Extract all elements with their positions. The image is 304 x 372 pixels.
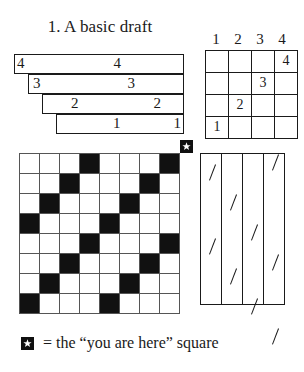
checkerboard-cell-filled bbox=[60, 174, 80, 194]
checkerboard-cell-filled bbox=[40, 194, 60, 214]
checkerboard-cell-empty bbox=[80, 294, 100, 314]
checkerboard-cell-filled bbox=[20, 214, 40, 234]
checkerboard-cell-empty bbox=[40, 154, 60, 174]
checkerboard-cell-filled bbox=[100, 294, 120, 314]
staircase-row-label-right: 2 bbox=[154, 96, 162, 111]
slash-mark-icon bbox=[207, 238, 216, 255]
staircase-row-label-left: 4 bbox=[17, 56, 25, 71]
checkerboard-cell-empty bbox=[140, 214, 160, 234]
checkerboard-row bbox=[20, 214, 180, 234]
star-icon bbox=[23, 339, 32, 348]
checkerboard-cell-filled bbox=[20, 294, 40, 314]
key-grid-column-header: 2 bbox=[227, 32, 249, 48]
key-grid-row: 3 bbox=[206, 72, 298, 94]
checkerboard-cell-empty bbox=[160, 274, 180, 294]
key-grid-row: 2 bbox=[206, 94, 298, 116]
slash-column-panel bbox=[200, 153, 285, 305]
checkerboard-cell-empty bbox=[60, 194, 80, 214]
checkerboard-cell-empty bbox=[20, 254, 40, 274]
checkerboard-cell-empty bbox=[160, 214, 180, 234]
key-grid-cell bbox=[206, 94, 229, 116]
checkerboard-cell-empty bbox=[80, 194, 100, 214]
legend-text: = the “you are here” square bbox=[43, 334, 219, 352]
checkerboard-cell-empty bbox=[160, 174, 180, 194]
checkerboard-cell-empty bbox=[80, 274, 100, 294]
star-icon bbox=[182, 142, 191, 151]
checkerboard-cell-empty bbox=[100, 274, 120, 294]
checkerboard-cell-empty bbox=[60, 234, 80, 254]
key-grid-row: 1 bbox=[206, 116, 298, 138]
staircase-row: 1 1 bbox=[56, 114, 184, 134]
staircase-row: 2 2 bbox=[42, 94, 184, 114]
slash-mark-icon bbox=[270, 328, 279, 345]
key-grid-cell: 2 bbox=[229, 94, 252, 116]
checkerboard-cell-empty bbox=[120, 154, 140, 174]
key-grid-cell bbox=[275, 94, 298, 116]
checkerboard-cell-empty bbox=[100, 154, 120, 174]
checkerboard-cell-empty bbox=[140, 194, 160, 214]
key-grid-cell bbox=[229, 116, 252, 138]
checkerboard-row bbox=[20, 294, 180, 314]
slash-mark-icon bbox=[249, 298, 258, 315]
checkerboard-cell-empty bbox=[60, 154, 80, 174]
checkerboard-cell-filled bbox=[40, 274, 60, 294]
checkerboard-cell-empty bbox=[100, 194, 120, 214]
checkerboard-cell-empty bbox=[20, 274, 40, 294]
key-grid-cell bbox=[252, 94, 275, 116]
key-grid-column-headers: 1 2 3 4 bbox=[205, 32, 293, 48]
staircase-row-label-right: 3 bbox=[128, 76, 136, 91]
checkerboard-cell-empty bbox=[60, 274, 80, 294]
checkerboard-cell-empty bbox=[40, 294, 60, 314]
key-grid-cell bbox=[252, 116, 275, 138]
key-grid-cell bbox=[229, 72, 252, 94]
checkerboard-cell-empty bbox=[160, 254, 180, 274]
checkerboard-cell-empty bbox=[40, 174, 60, 194]
page-title: 1. A basic draft bbox=[0, 17, 200, 37]
checkerboard-cell-empty bbox=[120, 174, 140, 194]
checkerboard-row bbox=[20, 174, 180, 194]
key-grid-cell: 4 bbox=[275, 50, 298, 72]
key-grid-cell bbox=[252, 50, 275, 72]
checkerboard-cell-empty bbox=[20, 194, 40, 214]
checkerboard-row bbox=[20, 234, 180, 254]
checkerboard-cell-empty bbox=[120, 294, 140, 314]
checkerboard-cell-empty bbox=[80, 174, 100, 194]
checkerboard-cell-empty bbox=[120, 254, 140, 274]
checkerboard-cell-filled bbox=[60, 254, 80, 274]
staircase-row-label-left: 2 bbox=[71, 96, 79, 111]
checkerboard-cell-empty bbox=[40, 214, 60, 234]
key-grid: 4 3 2 1 bbox=[205, 50, 298, 139]
checkerboard-cell-empty bbox=[80, 254, 100, 274]
checkerboard-cell-filled bbox=[100, 214, 120, 234]
checkerboard-cell-empty bbox=[100, 254, 120, 274]
checkerboard-row bbox=[20, 154, 180, 174]
checkerboard-cell-empty bbox=[160, 294, 180, 314]
checkerboard-cell-filled bbox=[120, 274, 140, 294]
checkerboard-cell-filled bbox=[140, 174, 160, 194]
slash-column bbox=[201, 154, 222, 304]
slash-mark-icon bbox=[270, 254, 279, 271]
slash-mark-icon bbox=[207, 164, 216, 181]
staircase-row: 3 3 bbox=[28, 74, 184, 94]
slash-mark-icon bbox=[270, 154, 279, 171]
key-grid-column-header: 1 bbox=[205, 32, 227, 48]
key-grid-cell bbox=[275, 116, 298, 138]
checkerboard-cell-empty bbox=[20, 154, 40, 174]
checkerboard-cell-filled bbox=[140, 254, 160, 274]
checkerboard-cell-empty bbox=[20, 174, 40, 194]
staircase-row: 4 4 bbox=[14, 54, 184, 74]
slash-column bbox=[222, 154, 243, 304]
you-are-here-marker bbox=[180, 140, 193, 153]
key-grid-cell bbox=[206, 50, 229, 72]
checkerboard-cell-empty bbox=[120, 214, 140, 234]
checkerboard-cell-empty bbox=[120, 234, 140, 254]
checkerboard-cell-empty bbox=[140, 234, 160, 254]
checkerboard-cell-filled bbox=[120, 194, 140, 214]
key-grid-block: 1 2 3 4 4 3 2 1 bbox=[205, 32, 298, 139]
key-grid-cell: 1 bbox=[206, 116, 229, 138]
slash-column bbox=[264, 154, 284, 304]
slash-mark-icon bbox=[228, 268, 237, 285]
staircase-row-label-right: 4 bbox=[114, 56, 122, 71]
key-grid-cell bbox=[275, 72, 298, 94]
checkerboard-cell-empty bbox=[60, 294, 80, 314]
